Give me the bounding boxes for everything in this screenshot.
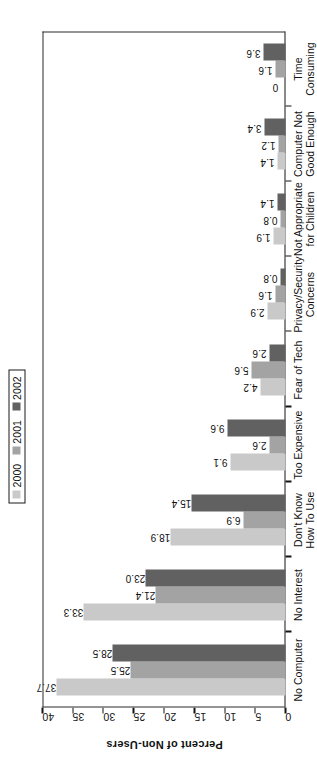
bar-value-label: 1.4 [260, 197, 274, 207]
category-label: Fear of Tech [290, 332, 317, 407]
bar-2000: 33.3 [83, 603, 285, 620]
bar-2002: 9.6 [227, 419, 285, 436]
bar-group: 18.96.915.4 [42, 482, 285, 557]
bar-2000: 1.4 [277, 152, 286, 169]
bar-group: 4.25.62.6 [42, 331, 285, 406]
bar-group: 37.725.528.5 [42, 632, 285, 707]
bar-2001: 25.5 [130, 661, 285, 678]
bar-value-label: 9.6 [210, 422, 224, 432]
category-label: Not Appropriate for Children [290, 181, 317, 256]
bar-value-label: 1.4 [260, 156, 274, 166]
category-label: Computer Not Good Enough [290, 106, 317, 181]
bar-value-label: 23.0 [126, 572, 145, 582]
category-label: Too Expensive [290, 407, 317, 482]
value-axis-tick-label: 5 [255, 711, 261, 722]
bar-2002: 3.4 [264, 118, 285, 135]
bar-2001: 2.6 [269, 436, 285, 453]
bar-value-label: 1.2 [261, 139, 275, 149]
bar-value-label: 28.5 [92, 647, 111, 657]
chart-legend: 2000 2001 2002 [8, 369, 25, 503]
legend-entry-2002: 2002 [11, 376, 22, 411]
value-axis-tick-label: 40 [42, 711, 54, 722]
legend-label-2001: 2001 [11, 419, 22, 443]
bar-value-label: 37.7 [36, 681, 55, 691]
category-label: Don't Know How To Use [290, 482, 317, 557]
bar-2000: 4.2 [260, 378, 286, 395]
bar-2001: 6.9 [243, 511, 285, 528]
legend-swatch-2000 [12, 490, 20, 498]
bar-2001: 5.6 [251, 361, 285, 378]
bar-2000: 9.1 [230, 453, 285, 470]
bar-group: 9.12.69.6 [42, 407, 285, 482]
bar-2001: 1.6 [275, 285, 285, 302]
value-axis-tick-label: 35 [72, 711, 84, 722]
legend-label-2000: 2000 [11, 463, 22, 487]
bar-2000: 18.9 [170, 528, 285, 545]
bar-2002: 2.6 [269, 344, 285, 361]
bar-value-label: 6.9 [226, 514, 240, 524]
bar-2002: 1.4 [277, 193, 286, 210]
chart-canvas: 2000 2001 2002 Percent of Non-Users 0510… [0, 0, 317, 759]
bar-value-label: 18.9 [150, 531, 169, 541]
bar-value-label: 0.8 [263, 272, 277, 282]
bar-value-label: 5.6 [234, 364, 248, 374]
bar-value-label: 3.6 [246, 47, 260, 57]
category-label: Time Consuming [290, 31, 317, 106]
category-label: Privacy/Security Concerns [290, 256, 317, 332]
bar-value-label: 33.3 [63, 606, 82, 616]
bar-2001: 1.2 [278, 135, 285, 152]
bar-2002: 23.0 [145, 569, 285, 586]
bar-group: 01.63.6 [42, 31, 285, 106]
value-axis-tick-label: 20 [164, 711, 176, 722]
bar-value-label: 1.6 [258, 64, 272, 74]
bar-value-label: 9.1 [213, 456, 227, 466]
value-axis: 0510152025303540 [42, 707, 285, 759]
legend-entry-2001: 2001 [11, 419, 22, 454]
bar-group: 1.90.81.4 [42, 181, 285, 256]
bar-value-label: 0 [272, 81, 278, 91]
plot-area: 37.725.528.533.321.423.018.96.915.49.12.… [42, 31, 285, 707]
bar-2000: 2.9 [267, 302, 285, 319]
legend-entry-2000: 2000 [11, 463, 22, 498]
value-axis-tick-label: 10 [224, 711, 236, 722]
bar-value-label: 1.9 [257, 231, 271, 241]
bar-group: 1.41.23.4 [42, 106, 285, 181]
value-axis-tick-label: 15 [194, 711, 206, 722]
bar-value-label: 1.6 [258, 289, 272, 299]
bar-value-label: 4.2 [243, 381, 257, 391]
legend-swatch-2001 [12, 446, 20, 454]
bar-value-label: 21.4 [135, 589, 154, 599]
bar-2001: 0.8 [280, 210, 285, 227]
bar-2001: 21.4 [155, 586, 285, 603]
category-label: No Computer [290, 632, 317, 707]
bar-2001: 1.6 [275, 60, 285, 77]
bar-value-label: 2.9 [250, 306, 264, 316]
bar-value-label: 2.6 [252, 347, 266, 357]
bar-group: 33.321.423.0 [42, 557, 285, 632]
bar-value-label: 2.6 [252, 439, 266, 449]
value-axis-tick-label: 25 [133, 711, 145, 722]
category-axis-labels: No ComputerNo InterestDon't Know How To … [290, 31, 317, 707]
value-axis-tick-label: 30 [103, 711, 115, 722]
bar-value-label: 25.5 [110, 664, 129, 674]
category-label: No Interest [290, 557, 317, 632]
legend-swatch-2002 [12, 402, 20, 410]
legend-label-2002: 2002 [11, 376, 22, 400]
bar-2002: 3.6 [263, 43, 285, 60]
bar-value-label: 15.4 [172, 497, 191, 507]
bar-group: 2.91.60.8 [42, 256, 285, 331]
bar-2002: 0.8 [280, 268, 285, 285]
bar-2000: 37.7 [56, 678, 285, 695]
bar-2002: 28.5 [112, 644, 285, 661]
bar-2002: 15.4 [191, 494, 285, 511]
value-axis-tick-label: 0 [285, 711, 291, 722]
bar-value-label: 3.4 [247, 122, 261, 132]
bar-2000: 1.9 [273, 227, 285, 244]
bar-value-label: 0.8 [263, 214, 277, 224]
bar-groups: 37.725.528.533.321.423.018.96.915.49.12.… [42, 31, 285, 707]
